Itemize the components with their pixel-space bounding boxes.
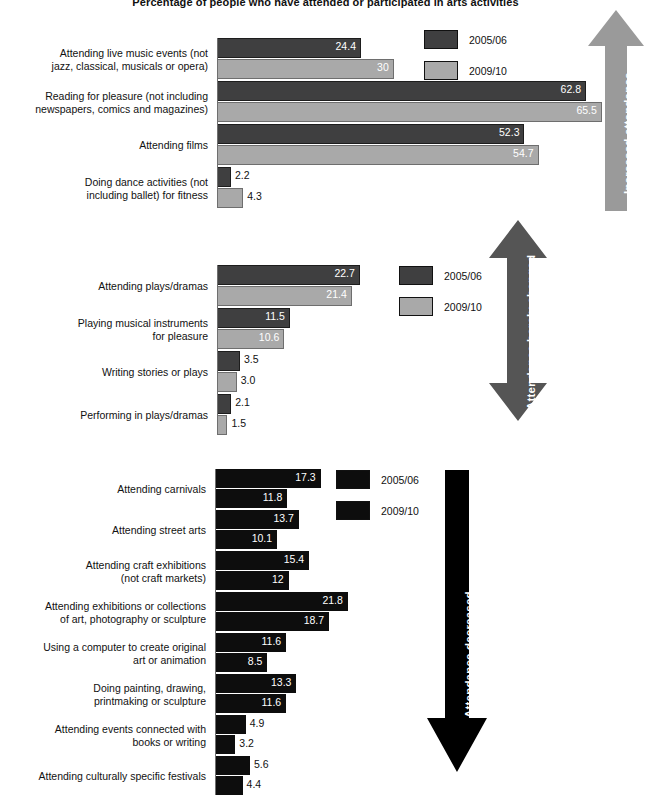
bar-2005-06-3 [218, 394, 231, 414]
category-label: Attending films [0, 139, 218, 152]
bar-value-label: 22.7 [330, 263, 355, 283]
arrow-up-down-icon [487, 218, 549, 423]
category-label: Performing in plays/dramas [0, 409, 218, 422]
legend-label: 2005/06 [381, 474, 419, 486]
page-title: Percentage of people who have attended o… [0, 0, 651, 8]
bar-2009-10-2 [218, 145, 539, 165]
legend-item-2005-06: 2005/06 [424, 30, 507, 49]
chart-panel-increased: Attending live music events (not jazz, c… [0, 38, 651, 213]
legend-swatch-icon [336, 501, 370, 520]
bar-value-label: 2.2 [235, 165, 250, 185]
bar-2009-10-1 [218, 102, 602, 122]
bar-2009-10-3 [218, 188, 243, 208]
category-label: Attending carnivals [0, 483, 216, 496]
bar-value-label: 11.6 [256, 692, 281, 711]
legend-label: 2005/06 [444, 270, 482, 282]
bar-value-label: 13.7 [269, 508, 294, 527]
bar-2009-10-6 [216, 735, 235, 754]
bar-value-label: 5.6 [254, 754, 269, 773]
arrow-increased-label: Increased attendance [622, 72, 634, 194]
chart-panel-unchanged: Attending plays/dramasPlaying musical in… [0, 265, 651, 420]
legend-item-2005-06: 2005/06 [336, 470, 419, 489]
category-label: Attending culturally specific festivals [0, 770, 216, 783]
bar-value-label: 13.3 [266, 672, 291, 691]
category-label-column-2: Attending plays/dramasPlaying musical in… [0, 265, 218, 420]
legend-swatch-icon [424, 61, 458, 80]
legend-label: 2009/10 [381, 505, 419, 517]
category-label: Attending exhibitions or collections of … [0, 600, 216, 625]
category-label: Playing musical instruments for pleasure [0, 317, 218, 342]
category-label: Attending craft exhibitions (not craft m… [0, 559, 216, 584]
bar-value-label: 4.3 [247, 186, 262, 206]
bar-value-label: 52.3 [494, 122, 519, 142]
legend-swatch-icon [399, 297, 433, 316]
bar-value-label: 4.4 [247, 774, 262, 793]
legend-item-2005-06: 2005/06 [399, 266, 482, 285]
category-label: Attending street arts [0, 524, 216, 537]
bar-value-label: 10.6 [254, 327, 279, 347]
category-label: Using a computer to create original art … [0, 641, 216, 666]
bar-2009-10-3 [218, 415, 227, 435]
bar-value-label: 54.7 [509, 143, 534, 163]
bar-value-label: 18.7 [299, 610, 324, 629]
bar-value-label: 4.9 [250, 713, 265, 732]
bar-2005-06-1 [218, 81, 586, 101]
category-label: Attending live music events (not jazz, c… [0, 47, 218, 72]
legend-label: 2009/10 [444, 301, 482, 313]
axis-spine [217, 265, 218, 435]
arrow-attendance-barely-changed: Attendance barely changed [487, 218, 549, 423]
arrow-increased-attendance: Increased attendance [586, 8, 646, 213]
bar-value-label: 3.5 [244, 349, 259, 369]
bar-value-label: 21.4 [322, 284, 347, 304]
bar-value-label: 8.5 [237, 651, 262, 670]
arrow-down-icon [425, 468, 489, 774]
bar-2005-06-7 [216, 756, 250, 775]
arrow-decreased-label: Attendance decreased [463, 591, 475, 718]
bar-value-label: 62.8 [556, 79, 581, 99]
bar-2005-06-6 [216, 715, 246, 734]
bar-value-label: 24.4 [331, 36, 356, 56]
bar-value-label: 21.8 [318, 590, 343, 609]
legend-item-2009-10: 2009/10 [336, 501, 419, 520]
category-label: Attending plays/dramas [0, 280, 218, 293]
bar-value-label: 11.6 [256, 631, 281, 650]
axis-spine [217, 38, 218, 208]
legend-swatch-icon [399, 266, 433, 285]
bar-value-label: 2.1 [235, 392, 250, 412]
bar-value-label: 15.4 [279, 549, 304, 568]
category-label-column-1: Attending live music events (not jazz, c… [0, 38, 218, 213]
bar-2005-06-2 [218, 124, 524, 144]
bar-value-label: 11.8 [257, 487, 282, 506]
chart-panel-decreased: Attending carnivalsAttending street arts… [0, 469, 651, 776]
bar-value-label: 1.5 [231, 413, 246, 433]
category-label: Reading for pleasure (not including news… [0, 90, 218, 115]
category-label: Doing dance activities (not including ba… [0, 176, 218, 201]
bar-2005-06-2 [218, 351, 240, 371]
bar-value-label: 11.5 [260, 306, 285, 326]
bar-value-label: 3.0 [241, 370, 256, 390]
bar-value-label: 12 [259, 569, 284, 588]
bar-value-label: 3.2 [239, 733, 254, 752]
bar-value-label: 10.1 [247, 528, 272, 547]
arrow-up-icon [586, 8, 646, 213]
bar-value-label: 30 [364, 57, 389, 77]
bar-2005-06-3 [218, 167, 231, 187]
legend-item-2009-10: 2009/10 [399, 297, 482, 316]
category-label: Attending events connected with books or… [0, 723, 216, 748]
bar-value-label: 17.3 [291, 467, 316, 486]
bar-2009-10-2 [218, 372, 237, 392]
arrow-unchanged-label: Attendance barely changed [525, 255, 537, 410]
legend-swatch-icon [336, 470, 370, 489]
category-label-column-3: Attending carnivalsAttending street arts… [0, 469, 216, 776]
legend-label: 2009/10 [469, 65, 507, 77]
category-label: Writing stories or plays [0, 366, 218, 379]
category-label: Doing painting, drawing, printmaking or … [0, 682, 216, 707]
legend-item-2009-10: 2009/10 [424, 61, 507, 80]
axis-spine [215, 469, 216, 795]
legend-label: 2005/06 [469, 34, 507, 46]
arrow-attendance-decreased: Attendance decreased [425, 468, 489, 774]
legend-swatch-icon [424, 30, 458, 49]
bar-2009-10-7 [216, 776, 243, 795]
